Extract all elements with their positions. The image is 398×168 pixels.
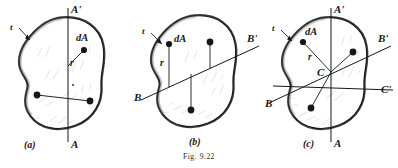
axis-label-a: A	[70, 138, 78, 150]
axis-label-b-prime: B'	[246, 32, 257, 44]
marker-dA-b	[166, 41, 172, 47]
radius-label-r-a: r	[70, 58, 74, 68]
panel-a: A' A dA r t (a)	[0, 0, 133, 150]
panel-b: B B' dA r t (b)	[133, 0, 266, 150]
marker-dA-a	[81, 47, 87, 53]
marker-dA-c	[300, 39, 306, 45]
centroid-label-c: C	[317, 66, 325, 78]
figure-caption: Fig. 9.22	[0, 151, 398, 161]
figure-9-22: A' A dA r t (a)	[0, 0, 398, 168]
figure-caption-prefix: Fig.	[183, 152, 197, 161]
marker-element-lower-b	[188, 107, 195, 114]
element-label-dA-c: dA	[305, 26, 317, 37]
panel-caption-a: (a)	[24, 139, 36, 150]
radius-label-r-b: r	[160, 58, 164, 68]
element-label-dA-a: dA	[76, 32, 88, 43]
marker-element-lower-left-c	[308, 105, 315, 112]
marker-element-right-c	[350, 49, 357, 56]
panel-caption-c: (c)	[303, 138, 314, 150]
axis-label-b-prime-c: B'	[377, 32, 388, 44]
radius-label-r-c: r	[308, 52, 312, 62]
axis-label-c-prime-c: C'	[381, 83, 391, 95]
thickness-label-t-c: t	[272, 23, 275, 33]
panel-caption-b: (b)	[189, 136, 201, 148]
element-label-dA-b: dA	[174, 33, 186, 44]
axis-label-a-prime-c: A'	[333, 3, 344, 15]
thickness-label-t-a: t	[10, 22, 13, 32]
marker-element-right-a	[87, 98, 94, 105]
axis-label-a-c: A	[333, 137, 341, 149]
axis-label-a-prime: A'	[70, 3, 81, 15]
thickness-label-t-b: t	[142, 26, 145, 36]
marker-element-left-a	[34, 92, 41, 99]
marker-element-upper-b	[207, 39, 214, 46]
axis-label-b: B	[133, 91, 141, 103]
figure-caption-number: 9.22	[200, 152, 215, 161]
axis-label-b-c: B	[265, 97, 272, 109]
panel-c: A' A B B' C' C dA r t (c)	[265, 0, 398, 150]
marker-dot-center-a	[72, 84, 74, 86]
